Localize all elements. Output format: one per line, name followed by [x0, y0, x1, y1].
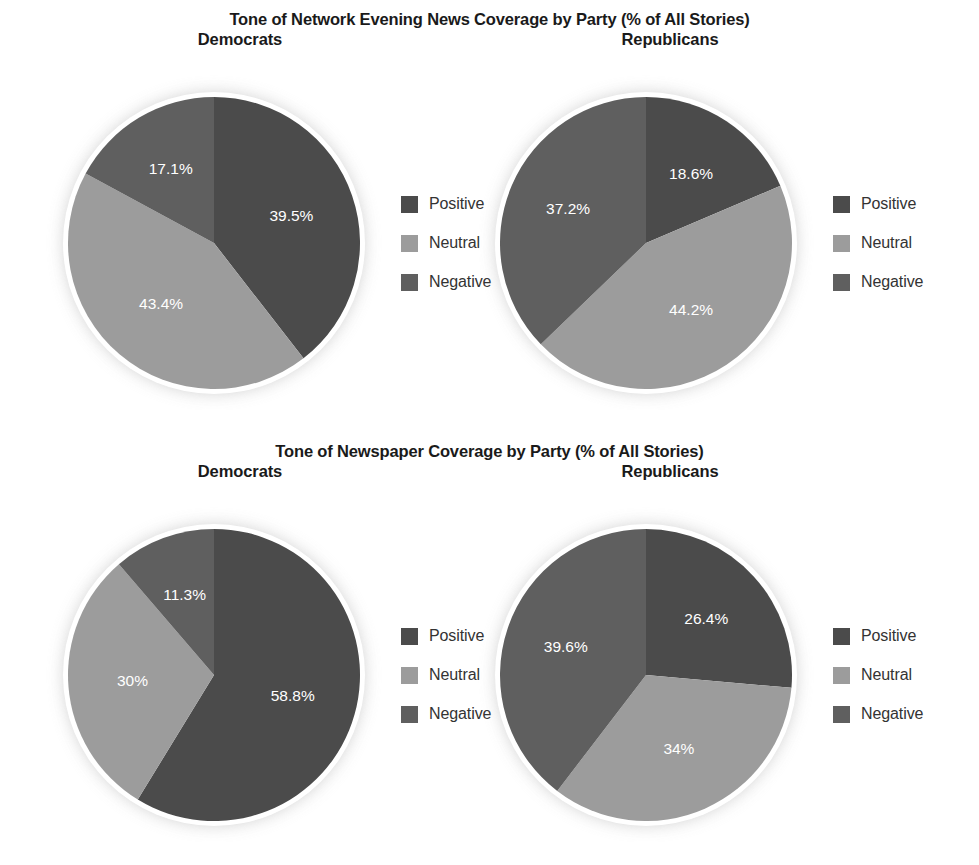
- legend-item-positive[interactable]: Positive: [833, 627, 923, 645]
- chart-page: Tone of Network Evening News Coverage by…: [0, 0, 979, 865]
- pie-slice-positive[interactable]: [646, 529, 792, 688]
- pie-subtitle-democrats: Democrats: [90, 462, 390, 481]
- legend-swatch-positive-icon: [401, 196, 418, 213]
- legend-swatch-positive-icon: [401, 628, 418, 645]
- legend-label: Neutral: [861, 666, 912, 684]
- pie-slice-label-positive: 26.4%: [684, 610, 728, 627]
- section-newspaper: Tone of Newspaper Coverage by Party (% o…: [0, 432, 979, 865]
- pie-slices: 18.6%44.2%37.2%: [500, 97, 792, 389]
- pie-slice-label-positive: 18.6%: [669, 165, 713, 182]
- legend-item-positive[interactable]: Positive: [401, 195, 491, 213]
- pie-svg: 39.5%43.4%17.1%: [68, 97, 360, 389]
- pie-svg: 58.8%30%11.3%: [68, 529, 360, 821]
- pie-slice-label-positive: 39.5%: [269, 207, 313, 224]
- legend-item-neutral[interactable]: Neutral: [401, 666, 491, 684]
- pie-panel: 26.4%34%39.6% PositiveNeutralNegative: [487, 490, 923, 860]
- pie-svg: 26.4%34%39.6%: [500, 529, 792, 821]
- legend: PositiveNeutralNegative: [833, 627, 923, 723]
- section-network-evening-news: Tone of Network Evening News Coverage by…: [0, 0, 979, 432]
- legend-label: Negative: [861, 705, 923, 723]
- legend-swatch-positive-icon: [833, 628, 850, 645]
- pie-subtitle-republicans: Republicans: [520, 30, 820, 49]
- section-title: Tone of Network Evening News Coverage by…: [0, 0, 979, 30]
- pie-slice-label-neutral: 30%: [117, 672, 148, 689]
- pie-chart-network-democrats: 39.5%43.4%17.1%: [55, 84, 373, 402]
- subtitle-row: Democrats Republicans: [0, 462, 979, 490]
- pie-slices: 58.8%30%11.3%: [68, 529, 360, 821]
- legend-label: Neutral: [429, 234, 480, 252]
- legend-label: Negative: [861, 273, 923, 291]
- legend: PositiveNeutralNegative: [401, 627, 491, 723]
- pie-chart-newspaper-republicans: 26.4%34%39.6%: [487, 516, 805, 834]
- pie-slice-label-neutral: 43.4%: [139, 295, 183, 312]
- legend-label: Positive: [429, 627, 484, 645]
- legend-label: Negative: [429, 273, 491, 291]
- pie-slice-label-negative: 37.2%: [546, 200, 590, 217]
- legend-item-positive[interactable]: Positive: [833, 195, 923, 213]
- panels-row: 39.5%43.4%17.1% PositiveNeutralNegative …: [0, 58, 979, 428]
- section-title: Tone of Newspaper Coverage by Party (% o…: [0, 432, 979, 462]
- legend-label: Positive: [429, 195, 484, 213]
- pie-chart-network-republicans: 18.6%44.2%37.2%: [487, 84, 805, 402]
- legend-swatch-neutral-icon: [401, 667, 418, 684]
- pie-svg: 18.6%44.2%37.2%: [500, 97, 792, 389]
- legend-item-negative[interactable]: Negative: [833, 273, 923, 291]
- pie-slices: 39.5%43.4%17.1%: [68, 97, 360, 389]
- legend-label: Positive: [861, 195, 916, 213]
- pie-slice-label-positive: 58.8%: [271, 687, 315, 704]
- legend-label: Negative: [429, 705, 491, 723]
- pie-panel: 18.6%44.2%37.2% PositiveNeutralNegative: [487, 58, 923, 428]
- legend: PositiveNeutralNegative: [401, 195, 491, 291]
- legend-swatch-positive-icon: [833, 196, 850, 213]
- legend-label: Neutral: [861, 234, 912, 252]
- panels-row: 58.8%30%11.3% PositiveNeutralNegative 26…: [0, 490, 979, 860]
- pie-slice-label-negative: 39.6%: [544, 638, 588, 655]
- pie-slice-label-neutral: 44.2%: [669, 301, 713, 318]
- pie-subtitle-democrats: Democrats: [90, 30, 390, 49]
- legend-item-positive[interactable]: Positive: [401, 627, 491, 645]
- legend-label: Positive: [861, 627, 916, 645]
- legend-swatch-negative-icon: [401, 706, 418, 723]
- legend: PositiveNeutralNegative: [833, 195, 923, 291]
- pie-subtitle-republicans: Republicans: [520, 462, 820, 481]
- pie-slice-label-negative: 11.3%: [163, 586, 206, 603]
- pie-slices: 26.4%34%39.6%: [500, 529, 792, 821]
- legend-swatch-negative-icon: [833, 706, 850, 723]
- pie-panel: 58.8%30%11.3% PositiveNeutralNegative: [55, 490, 491, 860]
- pie-chart-newspaper-democrats: 58.8%30%11.3%: [55, 516, 373, 834]
- legend-item-neutral[interactable]: Neutral: [833, 666, 923, 684]
- legend-item-negative[interactable]: Negative: [833, 705, 923, 723]
- legend-item-negative[interactable]: Negative: [401, 705, 491, 723]
- legend-swatch-neutral-icon: [833, 667, 850, 684]
- legend-swatch-neutral-icon: [401, 235, 418, 252]
- legend-swatch-negative-icon: [833, 274, 850, 291]
- legend-item-neutral[interactable]: Neutral: [833, 234, 923, 252]
- subtitle-row: Democrats Republicans: [0, 30, 979, 58]
- pie-panel: 39.5%43.4%17.1% PositiveNeutralNegative: [55, 58, 491, 428]
- pie-slice-label-negative: 17.1%: [149, 160, 193, 177]
- legend-swatch-neutral-icon: [833, 235, 850, 252]
- legend-swatch-negative-icon: [401, 274, 418, 291]
- legend-item-neutral[interactable]: Neutral: [401, 234, 491, 252]
- legend-label: Neutral: [429, 666, 480, 684]
- legend-item-negative[interactable]: Negative: [401, 273, 491, 291]
- pie-slice-label-neutral: 34%: [663, 740, 694, 757]
